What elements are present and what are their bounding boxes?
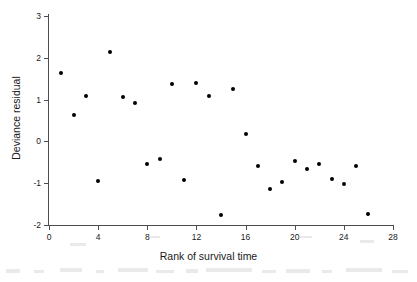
scan-artifact <box>360 240 374 243</box>
data-point <box>330 177 334 181</box>
scan-artifact <box>156 270 174 273</box>
data-point <box>170 82 174 86</box>
y-tick-mark <box>44 58 48 59</box>
scan-artifact <box>150 236 160 238</box>
data-point <box>244 132 248 136</box>
scan-artifact <box>186 269 198 273</box>
y-tick-mark <box>44 100 48 101</box>
scan-artifact <box>70 243 86 246</box>
scan-artifact <box>96 270 104 273</box>
x-tick-mark <box>49 226 50 230</box>
scatter-plot-figure: 3210-1-2 0481216202428 Rank of survival … <box>0 0 417 282</box>
x-axis-line <box>48 225 394 226</box>
data-point <box>305 167 309 171</box>
y-tick-label: 1 <box>19 96 41 105</box>
x-tick-mark <box>344 226 345 230</box>
x-tick-mark <box>147 226 148 230</box>
x-tick-label: 28 <box>381 233 405 242</box>
scan-artifact <box>322 270 332 273</box>
x-axis-title: Rank of survival time <box>0 250 417 262</box>
x-tick-mark <box>196 226 197 230</box>
scan-artifact <box>34 270 44 273</box>
y-tick-mark <box>44 141 48 142</box>
y-tick-mark <box>44 183 48 184</box>
data-point <box>256 164 260 168</box>
data-point <box>293 159 297 163</box>
data-point <box>121 95 125 99</box>
x-tick-mark <box>246 226 247 230</box>
y-tick-mark <box>44 16 48 17</box>
y-tick-label: 0 <box>19 137 41 146</box>
data-point <box>354 164 358 168</box>
x-tick-label: 4 <box>86 233 110 242</box>
plot-data-area <box>49 16 393 225</box>
y-axis-title: Deviance residual <box>10 48 22 188</box>
y-tick-label: 2 <box>19 54 41 63</box>
scan-artifact <box>6 269 20 273</box>
scan-artifact <box>118 268 148 272</box>
x-tick-label: 16 <box>234 233 258 242</box>
x-tick-mark <box>98 226 99 230</box>
y-tick-label: -2 <box>19 221 41 230</box>
x-tick-label: 12 <box>184 233 208 242</box>
data-point <box>133 101 137 105</box>
x-tick-label: 24 <box>332 233 356 242</box>
scan-artifact <box>206 268 252 272</box>
data-point <box>207 94 211 98</box>
data-point <box>72 113 76 117</box>
x-tick-label: 0 <box>37 233 61 242</box>
scan-artifact <box>60 268 82 272</box>
scan-artifact <box>286 269 310 273</box>
data-point <box>219 213 223 217</box>
scan-artifact <box>392 270 408 273</box>
data-point <box>158 157 162 161</box>
scan-artifact <box>346 268 382 272</box>
data-point <box>268 187 272 191</box>
x-tick-mark <box>295 226 296 230</box>
x-tick-mark <box>393 226 394 230</box>
scan-artifact <box>300 236 312 238</box>
y-tick-mark <box>44 225 48 226</box>
y-tick-label: -1 <box>19 179 41 188</box>
scan-artifact <box>262 270 276 273</box>
y-tick-label: 3 <box>19 12 41 21</box>
